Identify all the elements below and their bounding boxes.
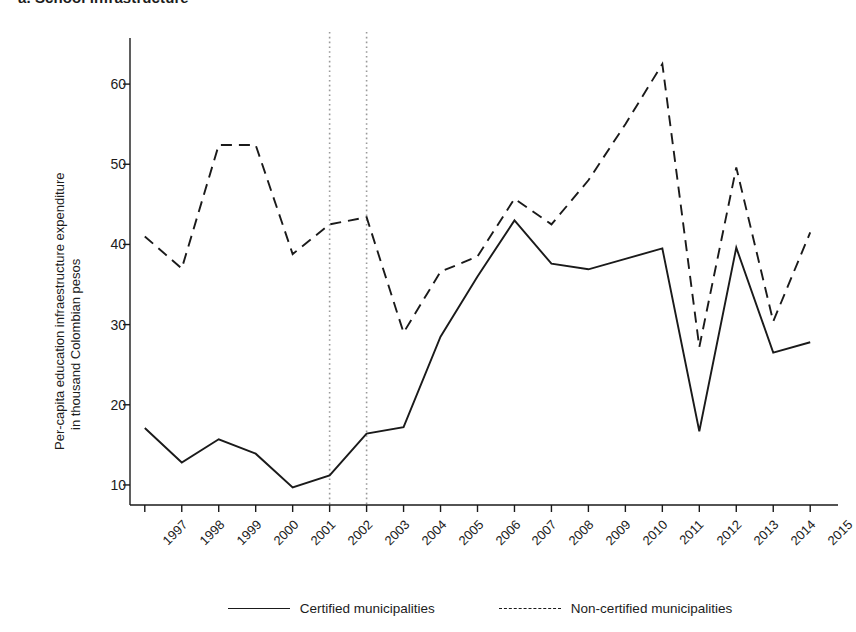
x-axis-tick-label: 2001 xyxy=(307,517,338,548)
x-axis-tick-label: 1997 xyxy=(159,517,190,548)
x-axis-tick-label: 2009 xyxy=(603,517,634,548)
x-axis-tick-label: 2005 xyxy=(455,517,486,548)
legend-item[interactable]: Non-certified municipalities xyxy=(499,601,732,616)
x-axis-tick-label: 2010 xyxy=(640,517,671,548)
legend-item[interactable]: Certified municipalities xyxy=(228,601,435,616)
x-axis-tick-label: 2006 xyxy=(492,517,523,548)
legend-swatch-dashed-icon xyxy=(499,608,561,609)
x-axis-tick-label: 2012 xyxy=(714,517,745,548)
x-axis-tick-label: 2015 xyxy=(825,517,856,548)
legend-swatch-solid-icon xyxy=(228,608,290,609)
x-axis-tick-label: 1999 xyxy=(233,517,264,548)
x-axis-tick-label: 1998 xyxy=(196,517,227,548)
x-axis-tick-label: 2007 xyxy=(529,517,560,548)
x-axis-tick-label: 2014 xyxy=(788,517,819,548)
legend-label: Non-certified municipalities xyxy=(571,601,732,616)
x-axis-tick-label: 2008 xyxy=(566,517,597,548)
x-axis-tick-label: 2000 xyxy=(270,517,301,548)
x-axis-tick-label: 2004 xyxy=(418,517,449,548)
x-axis-tick-label: 2002 xyxy=(344,517,375,548)
x-axis-tick-label: 2003 xyxy=(381,517,412,548)
chart-legend: Certified municipalitiesNon-certified mu… xyxy=(130,595,830,621)
legend-label: Certified municipalities xyxy=(300,601,435,616)
x-axis-tick-label: 2011 xyxy=(677,517,707,547)
x-axis-tick-label: 2013 xyxy=(751,517,782,548)
